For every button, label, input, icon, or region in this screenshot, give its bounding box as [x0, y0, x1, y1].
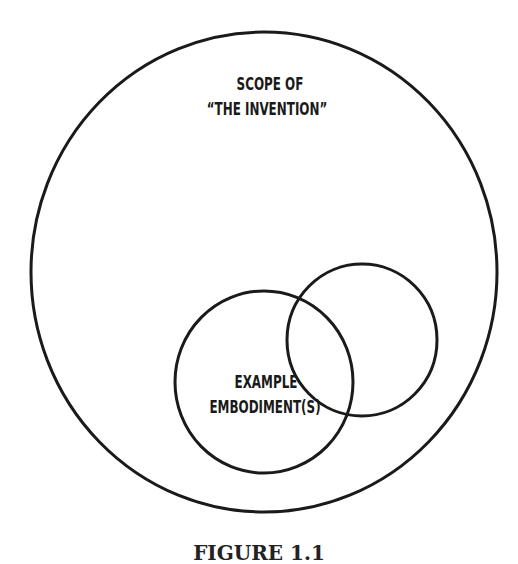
scope-label-line2: “THE INVENTION” [207, 99, 328, 119]
figure-caption: FIGURE 1.1 [193, 541, 325, 564]
embodiment-label-line2: EMBODIMENT(S) [209, 397, 320, 417]
embodiment-label-line1: EXAMPLE [235, 372, 298, 392]
scope-label-line1: SCOPE OF [237, 74, 304, 94]
overlapping-circle [287, 264, 437, 416]
